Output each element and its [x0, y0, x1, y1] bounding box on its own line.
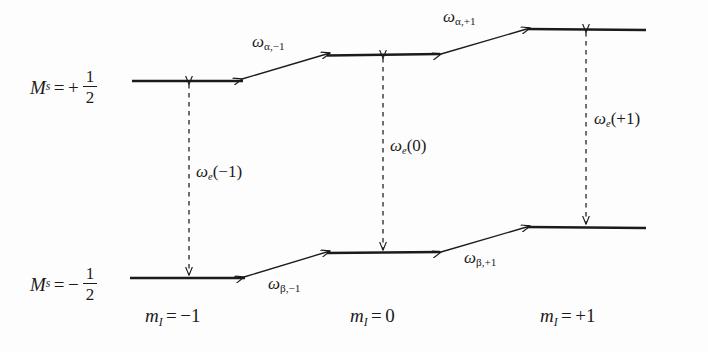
omega-symbol: ω — [252, 32, 264, 51]
vertical-transition-arrows — [189, 32, 586, 275]
omega-subscript: α,+1 — [455, 15, 476, 27]
fraction-denominator: 2 — [83, 87, 98, 106]
state-symbol: M — [30, 275, 46, 294]
mI-symbol: m — [350, 305, 364, 326]
fraction-numerator: 1 — [83, 265, 98, 284]
slanted-transition-arrows — [242, 28, 530, 277]
mI-symbol: m — [540, 305, 554, 326]
state-label-ms-minus-half: Ms = − 1 2 — [30, 265, 97, 303]
state-symbol-subscript: s — [46, 81, 51, 93]
omega-argument: (+1) — [611, 109, 640, 128]
mI-subscript: I — [364, 316, 368, 329]
omega-symbol: ω — [464, 248, 476, 267]
transition-label-we-minus1: ωe(−1) — [196, 163, 242, 183]
state-label-ms-plus-half: Ms = + 1 2 — [30, 68, 97, 106]
omega-symbol: ω — [443, 7, 455, 26]
omega-symbol: ω — [196, 162, 208, 181]
energy-level-upper-mI-zero — [327, 54, 440, 56]
fraction-denominator: 2 — [83, 284, 98, 303]
transition-label-w-alpha-minus1: ωα,−1 — [252, 33, 285, 53]
equals-sign: = — [166, 305, 177, 326]
transition-arrow-w-alpha-plus1 — [441, 28, 530, 54]
omega-subscript: α,−1 — [264, 40, 285, 52]
fraction-numerator: 1 — [83, 68, 98, 87]
equals-sign: = — [54, 78, 65, 97]
equals-sign: = — [54, 275, 65, 294]
equals-sign: = — [371, 305, 382, 326]
transition-label-w-beta-minus1: ωβ,−1 — [268, 275, 300, 295]
state-sign: + — [68, 78, 79, 97]
energy-level-upper-mI-plus1 — [527, 29, 646, 30]
transition-label-we-plus1: ωe(+1) — [594, 110, 640, 130]
mI-subscript: I — [554, 316, 558, 329]
mI-value: +1 — [575, 305, 595, 326]
axis-label-mI-zero: mI=0 — [350, 306, 395, 328]
state-sign: − — [68, 275, 79, 294]
mI-symbol: m — [145, 305, 159, 326]
omega-symbol: ω — [594, 109, 606, 128]
transition-label-we-zero: ωe(0) — [390, 137, 427, 157]
energy-level-bars — [130, 29, 646, 278]
equals-sign: = — [561, 305, 572, 326]
energy-level-lower-mI-zero — [327, 252, 440, 253]
transition-label-w-beta-plus1: ωβ,+1 — [464, 249, 496, 269]
omega-symbol: ω — [390, 136, 402, 155]
energy-level-diagram-svg — [0, 0, 708, 352]
fraction-one-half: 1 2 — [83, 265, 98, 303]
omega-symbol: ω — [268, 274, 280, 293]
transition-arrow-w-beta-minus1 — [244, 251, 330, 277]
omega-argument: (−1) — [213, 162, 242, 181]
energy-level-lower-mI-plus1 — [527, 227, 646, 228]
transition-arrow-w-alpha-minus1 — [242, 53, 330, 79]
mI-value: 0 — [385, 305, 395, 326]
figure-canvas: Ms = + 1 2 Ms = − 1 2 ωα,−1 ωα,+1 ωβ,−1 … — [0, 0, 708, 352]
mI-subscript: I — [159, 316, 163, 329]
fraction-one-half: 1 2 — [83, 68, 98, 106]
axis-label-mI-plus1: mI=+1 — [540, 306, 595, 328]
axis-label-mI-minus1: mI=−1 — [145, 306, 200, 328]
transition-label-w-alpha-plus1: ωα,+1 — [443, 8, 476, 28]
omega-subscript: β,+1 — [476, 256, 496, 268]
omega-argument: (0) — [407, 136, 427, 155]
state-symbol-subscript: s — [46, 278, 51, 290]
mI-value: −1 — [180, 305, 200, 326]
state-symbol: M — [30, 78, 46, 97]
omega-subscript: β,−1 — [280, 282, 300, 294]
